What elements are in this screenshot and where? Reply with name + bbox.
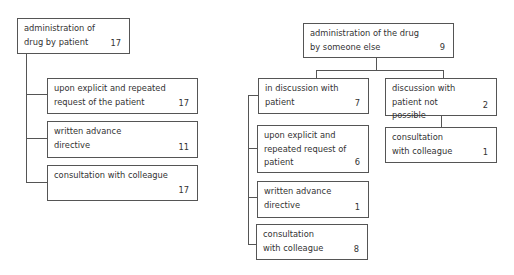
right-trunk-line	[248, 95, 249, 245]
right-connector-0	[248, 95, 258, 96]
left-child-node-consultation: consultation with colleague 17	[47, 165, 198, 201]
node-label: written advance directive	[54, 125, 138, 152]
node-value: 17	[178, 97, 189, 111]
node-value: 17	[110, 37, 121, 51]
node-label: consultation with colleague	[54, 169, 191, 183]
node-value: 6	[355, 156, 360, 170]
left-root-node: administration of drug by patient 17	[17, 18, 130, 54]
node-value: 9	[440, 41, 445, 55]
left-child-node-directive: written advance directive 11	[47, 121, 198, 158]
right-branch1-child-request: upon explicit and repeated request of pa…	[257, 125, 369, 173]
right-root-stem	[376, 57, 377, 70]
right-branch-stem-2	[443, 70, 444, 78]
node-label: upon explicit and repeated request of pa…	[264, 129, 362, 170]
right-branch-stem-1	[316, 70, 317, 78]
right-root-node: administration of the drug by someone el…	[303, 23, 454, 58]
right-branch2-child-consultation: consultation with colleague 1	[385, 127, 497, 163]
node-value: 11	[178, 141, 189, 155]
node-label: administration of drug by patient	[24, 22, 123, 49]
node-label: consultation with colleague	[263, 228, 347, 255]
node-value: 7	[355, 97, 360, 111]
node-label: upon explicit and repeated request of th…	[54, 82, 191, 109]
right-branch1-child-consultation: consultation with colleague 8	[256, 224, 368, 260]
node-label: administration of the drug by someone el…	[310, 27, 442, 54]
node-value: 2	[483, 99, 488, 113]
node-label: consultation with colleague	[392, 131, 476, 158]
right-branch-node-not-possible: discussion with patient not possible 2	[385, 78, 497, 116]
node-label: discussion with patient not possible	[392, 82, 486, 123]
left-child-node-request: upon explicit and repeated request of th…	[47, 78, 198, 114]
right-branch-node-discussion: in discussion with patient 7	[258, 78, 369, 114]
node-value: 1	[355, 201, 360, 215]
node-value: 8	[354, 243, 359, 257]
left-trunk-line	[26, 53, 27, 183]
node-value: 1	[483, 146, 488, 160]
node-value: 17	[178, 184, 189, 198]
left-connector-3	[26, 182, 47, 183]
left-connector-1	[26, 94, 47, 95]
left-connector-2	[26, 138, 47, 139]
right-root-bar	[316, 70, 444, 71]
node-label: written advance directive	[264, 185, 348, 212]
node-label: in discussion with patient	[265, 82, 362, 109]
right-branch1-child-directive: written advance directive 1	[257, 181, 369, 218]
